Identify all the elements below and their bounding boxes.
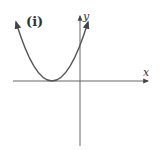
y-axis-label: y	[82, 10, 90, 23]
parabola-curve	[16, 22, 88, 81]
panel-label: (i)	[26, 14, 43, 29]
x-axis-label: x	[143, 66, 150, 79]
parabola-graph: (i) y x	[0, 0, 161, 151]
